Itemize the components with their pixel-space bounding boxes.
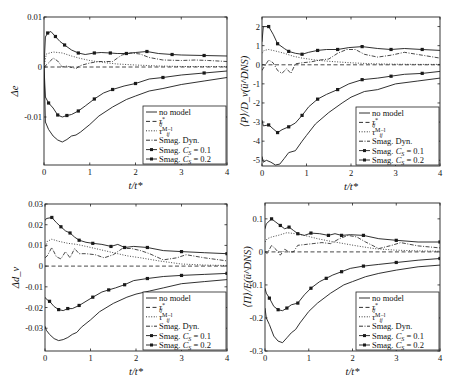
x-tick-label: 4 [225,353,230,363]
figure: 012340.010-0.01t/t*Δeno modelτ*ijτM−lijS… [0,0,457,386]
series-marker [46,31,49,34]
series-marker [48,300,51,303]
x-tick-label: 3 [179,353,183,363]
legend-entry-label: Smag. CS = 0.2 [159,340,211,351]
y-axis-label: ⟨Π⟩/E(ū^DNS) [242,246,254,308]
series-marker [171,53,174,56]
series-marker [309,231,312,234]
y-tick-label: 0.1 [252,214,263,224]
y-axis-label: Δd_ν [10,267,21,290]
series-marker [268,297,271,300]
series-marker [123,283,126,286]
y-tick-label: 0 [259,247,263,257]
x-tick-label: 1 [307,353,311,363]
x-tick-label: 2 [134,353,138,363]
series-marker [270,217,273,220]
series-marker [54,35,57,38]
series-marker [56,113,59,116]
y-axis-label: Δe [9,85,20,97]
y-tick-label: -2 [253,98,260,108]
series-marker [267,25,270,28]
y-tick-label: -0.03 [25,323,43,333]
legend-entry-label: Smag. CS = 0.2 [372,155,424,166]
y-tick-label: -0.2 [250,313,263,323]
x-axis-label: t/t* [128,180,143,191]
x-tick-label: 0 [260,168,264,178]
series-marker [389,75,392,78]
y-axis-label: ⟨P⟩/D_ν(ū^DNS) [239,55,251,127]
series-marker [77,109,80,112]
series-marker [277,308,280,311]
series-marker [109,51,112,54]
series-marker [276,42,279,45]
series-marker [336,48,339,51]
y-tick-label: 0.01 [27,12,42,22]
y-tick-label: 0.02 [28,220,43,230]
series-marker [180,274,183,277]
series-marker [161,76,164,79]
series-marker [296,232,299,235]
y-tick-label: -3 [253,117,260,127]
y-tick-label: -4 [253,136,261,146]
series-line [44,52,227,67]
x-tick-label: 2 [133,167,137,177]
series-line [262,50,440,74]
series-marker [421,48,424,51]
series-marker [362,264,365,267]
series-marker [47,101,50,104]
series-marker [296,301,299,304]
series-marker [340,234,343,237]
series-marker [287,50,290,53]
y-tick-label: -0.01 [24,112,42,122]
series-marker [340,270,343,273]
series-marker [285,306,288,309]
series-line [265,219,440,242]
series-marker [279,224,282,227]
x-tick-label: 3 [179,167,183,177]
x-tick-label: 0 [42,167,46,177]
panel-delta-d-nu: 012340.030.020.010-0.01-0.02-0.03t/t*Δd_… [10,199,230,377]
x-tick-label: 2 [350,353,354,363]
x-tick-label: 2 [349,168,353,178]
series-marker [57,308,60,311]
series-marker [325,277,328,280]
series-marker [336,88,339,91]
series-marker [50,216,53,219]
series-marker [362,234,365,237]
legend: no modelτ*ijτM−lijSmag. Dyn.Smag. CS = 0… [143,106,226,165]
series-marker [123,246,126,249]
series-marker [287,125,290,128]
series-marker [267,123,270,126]
x-tick-label: 3 [393,168,397,178]
panel-transfer: 012340.10-0.1-0.2-0.3t/t*⟨Π⟩/E(ū^DNS)no … [242,203,443,377]
series-marker [316,98,319,101]
y-tick-label: 0 [256,60,260,70]
series-marker [125,52,128,55]
x-axis-label: t/t* [129,366,144,377]
x-axis-label: t/t* [345,366,360,377]
series-marker [145,50,148,53]
legend: no modelτ*ijτM−lijSmag. Dyn.Smag. CS = 0… [356,107,439,166]
y-tick-label: 2 [256,22,260,32]
y-tick-label: 1 [256,41,260,51]
series-marker [63,43,66,46]
x-tick-label: 3 [394,353,398,363]
series-marker [300,53,303,56]
x-tick-label: 0 [43,353,47,363]
y-tick-label: -0.01 [25,282,43,292]
panel-production: 01234210-1-2-3-4-5t/t*⟨P⟩/D_ν(ū^DNS)no m… [239,17,443,192]
series-marker [316,49,319,52]
series-marker [203,71,206,74]
series-marker [65,114,68,117]
series-marker [421,72,424,75]
series-marker [107,288,110,291]
series-marker [180,250,183,253]
series-marker [91,242,94,245]
series-marker [93,51,96,54]
series-marker [111,88,114,91]
series-marker [59,225,62,228]
y-tick-label: 0 [38,62,42,72]
series-marker [77,51,80,54]
y-tick-label: -1 [253,79,260,89]
series-marker [389,48,392,51]
